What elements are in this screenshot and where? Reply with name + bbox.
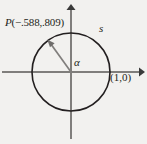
arc-length-label: s (99, 23, 103, 34)
unit-point-label: (1,0) (110, 72, 131, 83)
unit-circle-figure: P(−.588,.809) (1,0) s α (0, 0, 147, 144)
point-p-x-value: −.588, (15, 16, 42, 28)
point-p-y-value: .809 (42, 16, 60, 28)
angle-alpha-label: α (74, 57, 80, 68)
x-axis-arrowhead-icon (139, 68, 145, 77)
radius-line (51, 44, 72, 73)
radius-arrowhead-icon (47, 40, 54, 48)
y-axis-arrowhead-icon (67, 4, 76, 10)
point-p-close-paren: ) (60, 16, 63, 28)
radius-ray-to-point (47, 40, 71, 72)
point-p-label: P(−.588,.809) (5, 17, 64, 28)
